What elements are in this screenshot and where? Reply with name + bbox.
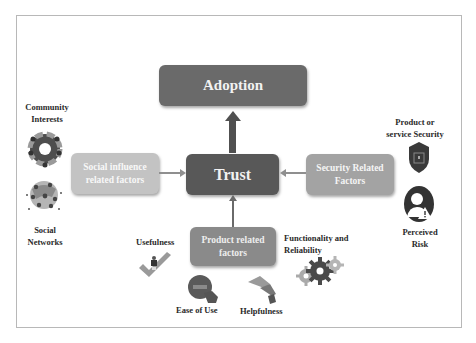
product-security-line1: Product or [382, 116, 448, 128]
perceived-risk-label: Perceived Risk [392, 226, 448, 251]
adoption-box: Adoption [159, 65, 307, 106]
helping-hand-icon [246, 274, 282, 306]
community-line1: Community [22, 101, 72, 113]
social-influence-box: Social influence related factors [71, 153, 159, 194]
social-network-globe-icon [24, 175, 64, 215]
community-circle-icon [27, 129, 63, 169]
perceived-risk-line2: Risk [392, 238, 448, 250]
product-factors-line1: Product related [201, 234, 264, 247]
security-factors-line2: Factors [316, 175, 383, 188]
shield-lock-icon [408, 141, 430, 174]
product-factors-box: Product related factors [190, 227, 276, 266]
touch-button-icon [186, 273, 222, 305]
community-line2: Interests [22, 113, 72, 125]
functionality-reliability-label: Functionality and Reliability [284, 232, 348, 257]
usefulness-label: Usefulness [136, 236, 174, 248]
social-networks-line2: Networks [20, 236, 70, 248]
adoption-label: Adoption [203, 75, 263, 95]
product-security-label: Product or service Security [382, 116, 448, 141]
checkmark-icon [137, 250, 173, 280]
security-factors-box: Security Related Factors [306, 154, 394, 195]
functionality-line1: Functionality and [284, 232, 348, 244]
helpfulness-label: Helpfulness [240, 305, 283, 317]
community-interests-label: Community Interests [22, 101, 72, 126]
gears-icon [296, 254, 346, 288]
social-influence-line2: related factors [83, 174, 147, 187]
social-networks-line1: Social [20, 224, 70, 236]
trust-label: Trust [214, 164, 251, 186]
ease-of-use-label: Ease of Use [176, 304, 218, 316]
social-networks-label: Social Networks [20, 224, 70, 249]
perceived-risk-line1: Perceived [392, 226, 448, 238]
trust-box: Trust [186, 154, 279, 195]
person-warning-icon [403, 185, 435, 223]
product-security-line2: service Security [382, 128, 448, 140]
security-factors-line1: Security Related [316, 162, 383, 175]
social-influence-line1: Social influence [83, 161, 147, 174]
product-factors-line2: factors [201, 247, 264, 260]
